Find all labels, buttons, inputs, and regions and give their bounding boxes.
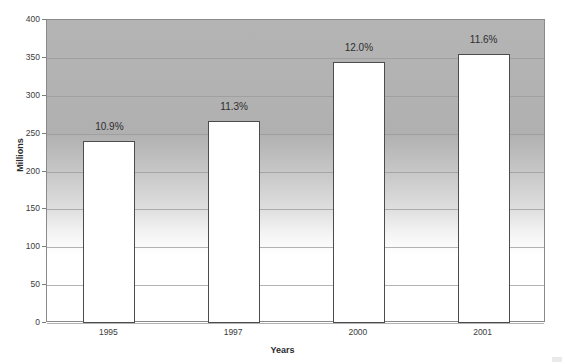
y-tick-mark bbox=[42, 57, 46, 58]
x-tick-label: 2000 bbox=[318, 328, 398, 337]
y-tick-label: 400 bbox=[10, 15, 40, 24]
y-axis-title: Millions bbox=[15, 115, 25, 195]
y-tick-mark bbox=[42, 171, 46, 172]
y-tick-mark bbox=[42, 133, 46, 134]
bar-value-label: 10.9% bbox=[69, 122, 149, 132]
plot-area: 10.9%11.3%12.0%11.6% bbox=[46, 19, 545, 322]
y-tick-label: 50 bbox=[10, 280, 40, 289]
y-tick-mark bbox=[42, 284, 46, 285]
y-tick-mark bbox=[42, 208, 46, 209]
bar bbox=[458, 54, 510, 323]
x-tick-label: 1995 bbox=[68, 328, 148, 337]
bar-value-label: 11.3% bbox=[194, 102, 274, 112]
y-tick-label: 300 bbox=[10, 91, 40, 100]
y-tick-mark bbox=[42, 95, 46, 96]
bar bbox=[208, 121, 260, 323]
bar bbox=[83, 141, 135, 323]
y-tick-label: 100 bbox=[10, 242, 40, 251]
bar-value-label: 12.0% bbox=[319, 43, 399, 53]
y-tick-label: 350 bbox=[10, 53, 40, 62]
gridline bbox=[47, 323, 544, 324]
bar bbox=[333, 62, 385, 323]
y-tick-label: 150 bbox=[10, 204, 40, 213]
y-tick-label: 0 bbox=[10, 318, 40, 327]
bar-chart: Millions 10.9%11.3%12.0%11.6% 4003503002… bbox=[0, 0, 565, 364]
bar-value-label: 11.6% bbox=[444, 35, 524, 45]
y-tick-mark bbox=[42, 246, 46, 247]
corner-artifact bbox=[552, 357, 562, 362]
x-tick-label: 2001 bbox=[443, 328, 523, 337]
y-tick-label: 200 bbox=[10, 167, 40, 176]
y-tick-mark bbox=[42, 322, 46, 323]
y-tick-label: 250 bbox=[10, 129, 40, 138]
x-axis-title: Years bbox=[0, 345, 565, 355]
y-tick-mark bbox=[42, 19, 46, 20]
x-tick-label: 1997 bbox=[193, 328, 273, 337]
